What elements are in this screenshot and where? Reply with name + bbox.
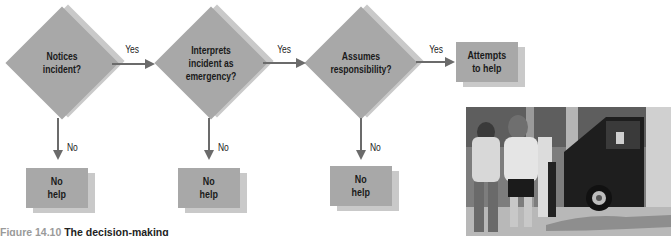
outcome-no-help-1: No help: [26, 168, 88, 208]
yes-connector-2: [263, 62, 297, 64]
outcome-box: Attempts to help: [456, 42, 518, 82]
no-label-1: No: [67, 142, 78, 153]
yes-label-3: Yes: [429, 44, 443, 55]
arrow-down-icon: [204, 150, 214, 160]
outcome-no-help-3: No help: [330, 166, 392, 206]
outcome-no-help-2: No help: [178, 168, 240, 208]
decision-label: Notices incident?: [14, 5, 109, 121]
figure-title: The decision-making: [64, 226, 168, 236]
no-connector-2: [208, 118, 210, 152]
outcome-attempts-to-help: Attempts to help: [456, 42, 518, 82]
outcome-label: No help: [48, 175, 66, 201]
arrow-right-icon: [145, 59, 155, 69]
no-connector-3: [360, 118, 362, 152]
decision-label: Assumes responsibility?: [313, 5, 408, 121]
outcome-box: No help: [26, 168, 88, 208]
yes-connector-3: [416, 61, 446, 63]
no-label-2: No: [218, 142, 229, 153]
arrow-right-icon: [296, 58, 306, 68]
yes-label-1: Yes: [125, 44, 139, 55]
outcome-label: No help: [200, 175, 218, 201]
outcome-label: No help: [352, 173, 370, 199]
yes-connector-1: [112, 63, 146, 65]
decision-notices-incident: Notices incident?: [4, 5, 120, 121]
figure-caption: Figure 14.10 The decision-making: [0, 226, 169, 236]
no-connector-1: [57, 118, 59, 152]
arrow-down-icon: [356, 150, 366, 160]
decision-interprets-emergency: Interprets incident as emergency?: [153, 5, 269, 121]
figure-number: Figure 14.10: [0, 226, 61, 236]
no-label-3: No: [370, 142, 381, 153]
photo-illustration: [466, 107, 671, 236]
decision-label: Interprets incident as emergency?: [163, 5, 258, 121]
outcome-box: No help: [178, 168, 240, 208]
yes-label-2: Yes: [277, 44, 291, 55]
outcome-label: Attempts to help: [468, 49, 507, 75]
bystander-photo: [466, 107, 671, 236]
outcome-box: No help: [330, 166, 392, 206]
arrow-down-icon: [53, 150, 63, 160]
arrow-right-icon: [445, 57, 455, 67]
decision-assumes-responsibility: Assumes responsibility?: [303, 5, 419, 121]
